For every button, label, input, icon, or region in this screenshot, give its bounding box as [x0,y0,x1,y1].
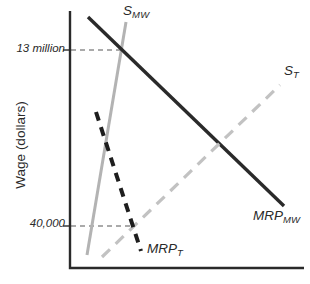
curve-label-s-mw-main: S [123,3,132,18]
curve-label-s-t: ST [284,64,299,78]
s-mw-curve [87,22,126,255]
curve-label-mrp-mw-main: MRP [253,208,283,223]
curve-label-s-t-sub: T [293,69,299,80]
s-t-curve [102,85,280,257]
curve-label-s-t-main: S [284,63,293,78]
curve-label-mrp-mw-sub: MW [283,214,300,225]
y-axis-title: Wage (dollars) [14,101,28,188]
curve-label-s-mw: SMW [123,4,149,18]
curve-label-mrp-mw: MRPMW [253,209,300,223]
curve-label-s-mw-sub: MW [132,9,149,20]
y-axis-value-40000: 40,000 [0,218,65,230]
guide-lines [71,50,134,226]
curve-label-mrp-t: MRPT [147,242,183,256]
curve-label-mrp-t-sub: T [177,247,183,258]
curve-label-mrp-t-main: MRP [147,241,177,256]
wage-diagram: Wage (dollars) 13 million 40,000 SMW ST … [0,0,310,284]
y-axis-value-13-million: 13 million [0,43,65,55]
mrp-t-curve [96,112,141,251]
